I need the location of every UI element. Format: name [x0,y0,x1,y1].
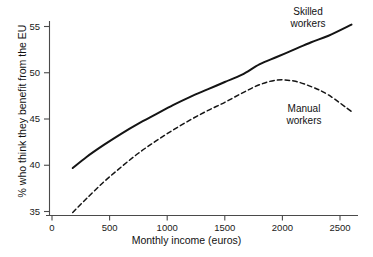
x-tick-label: 500 [90,223,130,233]
annotation-manual-line1: Manual [288,103,321,114]
x-tick-label: 2000 [262,223,302,233]
x-axis-title: Monthly income (euros) [0,234,373,246]
series-line-skilled-workers [73,25,352,168]
y-tick-marks [44,27,50,212]
series-annotation-skilled: Skilled workers [276,6,340,30]
annotation-manual-line2: workers [272,115,336,127]
x-tick-label: 2500 [320,223,360,233]
x-tick-label: 0 [32,223,72,233]
series-annotation-manual: Manual workers [272,103,336,127]
y-axis-title: % who think they benefit from the EU [16,11,28,211]
series-line-manual-workers [73,80,352,213]
x-tick-marks [52,216,340,221]
x-tick-label: 1000 [147,223,187,233]
annotation-skilled-line2: workers [276,18,340,30]
chart-container: 3540455055 05001000150020002500 % who th… [0,0,373,257]
x-tick-label: 1500 [205,223,245,233]
chart-plot-area [0,0,373,257]
annotation-skilled-line1: Skilled [293,6,322,17]
